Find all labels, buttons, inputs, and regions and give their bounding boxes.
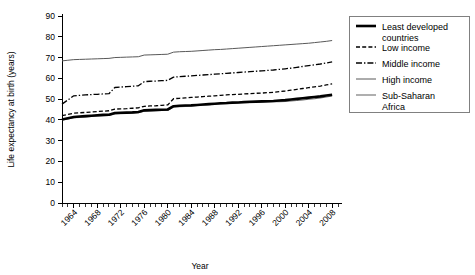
y-axis-title: Life expectancy at birth (years) <box>6 51 16 167</box>
x-tick-label: 1980 <box>153 207 174 228</box>
x-tick-label: 1964 <box>59 207 80 228</box>
x-axis-title: Year <box>191 261 208 271</box>
y-tick-label: 30 <box>46 136 56 146</box>
y-tick-label: 70 <box>46 53 56 63</box>
legend-label-continued: Africa <box>382 102 405 112</box>
y-tick-label: 20 <box>46 156 56 166</box>
x-tick-label: 2008 <box>317 207 338 228</box>
x-tick-label: 1976 <box>129 207 150 228</box>
x-tick-label: 2004 <box>294 207 315 228</box>
legend-label-continued: countries <box>382 33 419 43</box>
x-tick-label: 1968 <box>82 207 103 228</box>
y-tick-label: 40 <box>46 115 56 125</box>
series-line-middle-income <box>62 62 332 104</box>
life-expectancy-chart: 0102030405060708090196419681972197619801… <box>0 0 475 275</box>
y-tick-label: 80 <box>46 32 56 42</box>
y-tick-label: 10 <box>46 177 56 187</box>
y-tick-label: 50 <box>46 94 56 104</box>
legend-label: Least developed <box>382 22 448 32</box>
x-tick-label: 1984 <box>176 207 197 228</box>
legend-label: Low income <box>382 43 430 53</box>
legend-label: Sub-Saharan <box>382 91 435 101</box>
x-tick-label: 1988 <box>200 207 221 228</box>
x-tick-label: 2000 <box>270 207 291 228</box>
chart-canvas: 0102030405060708090196419681972197619801… <box>0 0 475 275</box>
y-tick-label: 0 <box>50 198 55 208</box>
x-tick-label: 1972 <box>106 207 127 228</box>
legend-label: Middle income <box>382 59 440 69</box>
x-tick-label: 1992 <box>223 207 244 228</box>
y-tick-label: 60 <box>46 73 56 83</box>
y-tick-label: 90 <box>46 11 56 21</box>
legend-label: High income <box>382 75 432 85</box>
x-tick-label: 1996 <box>247 207 268 228</box>
series-line-least-developed-countries <box>62 95 332 120</box>
series-line-high-income <box>62 41 332 61</box>
